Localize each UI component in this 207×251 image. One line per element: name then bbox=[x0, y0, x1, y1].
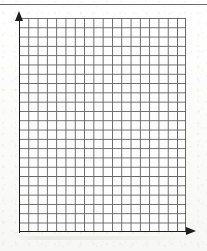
top-horizontal-rule bbox=[0, 4, 207, 5]
grid-right-border bbox=[185, 18, 186, 232]
scan-smudge bbox=[16, 236, 191, 240]
coordinate-grid bbox=[19, 18, 186, 232]
arrow-up-icon bbox=[15, 11, 23, 21]
y-axis bbox=[19, 18, 20, 233]
arrow-right-icon bbox=[186, 227, 196, 235]
graph-paper-figure bbox=[0, 0, 207, 251]
x-axis bbox=[19, 231, 189, 232]
plot-area bbox=[19, 18, 186, 232]
